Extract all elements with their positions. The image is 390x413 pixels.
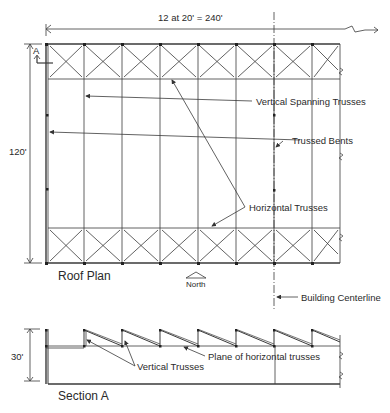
roof-plan-title: Roof Plan	[58, 270, 111, 282]
structural-diagram	[0, 0, 390, 413]
north-label: North	[186, 281, 206, 289]
section-a-marker	[34, 55, 53, 63]
depth-dimension-label: 120'	[9, 147, 27, 157]
north-arrow	[186, 272, 206, 278]
callout-plane-of-horizontal-trusses: Plane of horizontal trusses	[208, 352, 320, 362]
width-dimension-line	[46, 24, 378, 36]
callout-horizontal-trusses: Horizontal Trusses	[249, 203, 328, 213]
horizontal-truss-bracing-bottom	[50, 230, 338, 261]
horizontal-truss-bracing-top	[50, 46, 338, 77]
section-a-title: Section A	[58, 390, 109, 402]
width-dimension-label: 12 at 20' = 240'	[158, 13, 223, 23]
roof-plan-frame	[46, 44, 340, 263]
section-height-label: 30'	[11, 352, 23, 362]
callout-trussed-bents: Trussed Bents	[292, 136, 353, 146]
callout-vertical-spanning-trusses: Vertical Spanning Trusses	[256, 97, 366, 107]
callout-vertical-trusses: Vertical Trusses	[137, 362, 204, 372]
callout-building-centerline: Building Centerline	[301, 293, 381, 303]
section-marker-label: A	[33, 46, 39, 56]
